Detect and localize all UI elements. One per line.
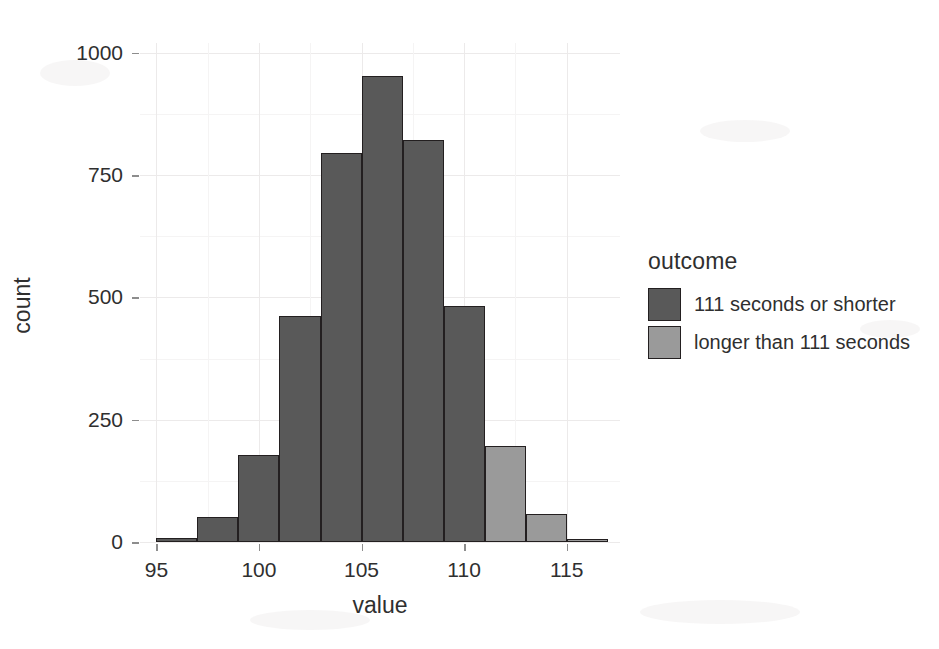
- paper-smudge: [700, 120, 790, 142]
- legend-label-longer: longer than 111 seconds: [694, 331, 910, 354]
- histogram-bar[interactable]: [279, 316, 320, 543]
- legend-key-longer: [648, 326, 681, 359]
- histogram-bar[interactable]: [567, 539, 608, 542]
- x-axis-tick-label: 115: [550, 558, 583, 582]
- histogram-bar[interactable]: [526, 514, 567, 542]
- histogram-figure: 02505007501000 95100105110115 value coun…: [0, 0, 939, 649]
- y-axis-tick: [132, 420, 139, 422]
- histogram-bar[interactable]: [156, 538, 197, 542]
- x-axis-tick-label: 110: [447, 558, 480, 582]
- y-axis-tick-label: 750: [5, 163, 123, 187]
- histogram-bar[interactable]: [362, 76, 403, 542]
- x-axis-tick: [362, 544, 364, 551]
- x-axis-tick-label: 95: [145, 558, 168, 582]
- legend-item-shorter[interactable]: 111 seconds or shorter: [648, 285, 928, 323]
- y-axis-tick: [132, 297, 139, 299]
- legend-key-shorter: [648, 288, 681, 321]
- y-axis-tick: [132, 53, 139, 55]
- x-axis-tick: [156, 544, 158, 551]
- y-axis-tick-label: 250: [5, 408, 123, 432]
- x-axis-tick: [259, 544, 261, 551]
- legend-label-shorter: 111 seconds or shorter: [694, 293, 896, 316]
- y-axis-tick-label: 0: [5, 530, 123, 554]
- histogram-bar[interactable]: [321, 153, 362, 542]
- paper-smudge: [640, 600, 800, 624]
- histogram-bar[interactable]: [238, 455, 279, 542]
- bars-layer: [140, 43, 620, 542]
- x-axis-tick-label: 105: [344, 558, 379, 582]
- legend: outcome 111 seconds or shorter longer th…: [648, 248, 928, 361]
- histogram-bar[interactable]: [485, 446, 526, 542]
- x-axis-tick: [464, 544, 466, 551]
- legend-item-longer[interactable]: longer than 111 seconds: [648, 323, 928, 361]
- x-axis-tick: [567, 544, 569, 551]
- plot-panel: [140, 43, 620, 542]
- histogram-bar[interactable]: [403, 140, 444, 542]
- x-axis-title: value: [140, 592, 620, 619]
- gridline-y-major: [140, 542, 620, 543]
- y-axis-tick: [132, 175, 139, 177]
- legend-title: outcome: [648, 248, 928, 275]
- y-axis-title: count: [9, 277, 36, 333]
- y-axis-tick: [132, 542, 139, 544]
- histogram-bar[interactable]: [444, 306, 485, 542]
- y-axis-tick-label: 1000: [5, 41, 123, 65]
- histogram-bar[interactable]: [197, 517, 238, 542]
- x-axis-tick-label: 100: [241, 558, 276, 582]
